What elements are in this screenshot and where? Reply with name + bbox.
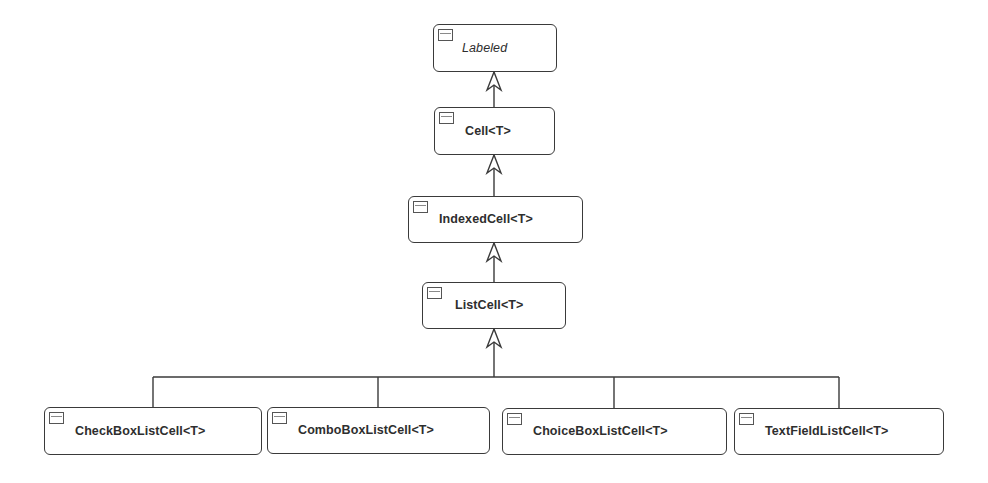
class-icon <box>427 287 442 299</box>
class-icon <box>413 201 428 213</box>
class-icon <box>272 412 287 424</box>
class-name: CheckBoxListCell<T> <box>75 424 261 438</box>
class-checkboxlistcell[interactable]: CheckBoxListCell<T> <box>44 407 262 455</box>
class-name: Cell<T> <box>465 124 554 138</box>
class-choiceboxlistcell[interactable]: ChoiceBoxListCell<T> <box>502 408 727 455</box>
class-cell[interactable]: Cell<T> <box>434 107 555 155</box>
class-listcell[interactable]: ListCell<T> <box>422 282 566 329</box>
class-name: IndexedCell<T> <box>439 212 582 226</box>
class-labeled[interactable]: Labeled <box>433 24 557 72</box>
class-icon <box>439 112 454 124</box>
class-icon <box>438 29 453 41</box>
class-name: ComboBoxListCell<T> <box>298 423 489 437</box>
class-name: ChoiceBoxListCell<T> <box>533 424 726 438</box>
class-icon <box>507 413 522 425</box>
class-name: Labeled <box>462 41 556 55</box>
class-icon <box>739 413 754 425</box>
class-textfieldlistcell[interactable]: TextFieldListCell<T> <box>734 408 944 455</box>
class-icon <box>49 412 64 424</box>
class-name: ListCell<T> <box>455 298 565 312</box>
class-indexedcell[interactable]: IndexedCell<T> <box>408 196 583 243</box>
class-comboboxlistcell[interactable]: ComboBoxListCell<T> <box>267 407 490 454</box>
class-hierarchy-diagram: Labeled Cell<T> IndexedCell<T> ListCell<… <box>0 0 988 483</box>
class-name: TextFieldListCell<T> <box>765 424 943 438</box>
